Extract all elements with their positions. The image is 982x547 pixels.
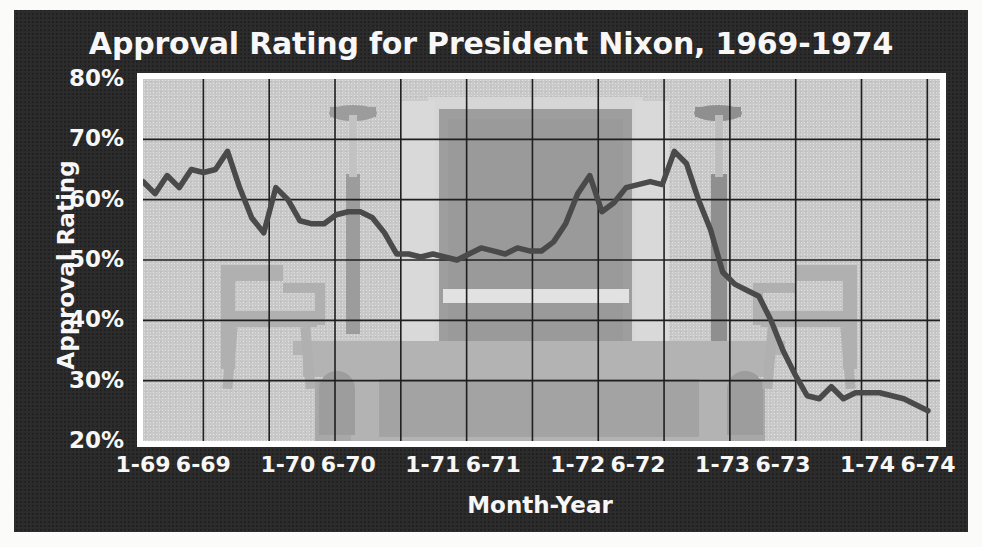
plot-svg xyxy=(143,79,940,441)
x-tick-label: 6-74 xyxy=(888,452,968,477)
x-tick-label: 6-72 xyxy=(598,452,678,477)
plot-area xyxy=(143,79,940,441)
x-tick-label: 6-71 xyxy=(453,452,533,477)
oval-office-watermark xyxy=(221,97,857,441)
x-tick-label: 6-69 xyxy=(163,452,243,477)
x-tick-label: 6-70 xyxy=(308,452,388,477)
plot-frame xyxy=(137,73,946,447)
chart-figure: Approval Rating for President Nixon, 196… xyxy=(0,0,982,547)
x-tick-label: 6-73 xyxy=(743,452,823,477)
chart-panel: Approval Rating for President Nixon, 196… xyxy=(14,10,968,532)
